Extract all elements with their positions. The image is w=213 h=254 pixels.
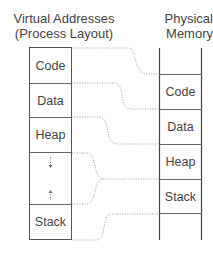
segment-label: Data — [167, 120, 193, 134]
segment-label: Data — [37, 94, 63, 108]
connector-free-top — [72, 153, 159, 179]
physical-segment-code: Code — [159, 74, 202, 109]
connector-stack — [72, 214, 159, 240]
segment-label: Heap — [166, 155, 196, 169]
virtual-segment-heap: Heap — [30, 118, 71, 153]
physical-segment-heap: Heap — [159, 144, 202, 179]
connector-code — [72, 48, 159, 74]
physical-segment-data: Data — [159, 109, 202, 144]
connector-data — [72, 83, 159, 109]
segment-label: Stack — [165, 190, 196, 204]
virtual-segment-data: Data — [30, 84, 71, 118]
segment-label: Code — [166, 85, 196, 99]
virtual-segment-stack: Stack — [30, 205, 71, 239]
segment-label: Code — [36, 59, 66, 73]
connector-free-bottom — [72, 179, 104, 204]
segment-label: Stack — [35, 215, 66, 229]
physical-segment-stack: Stack — [159, 179, 202, 214]
connector-heap — [72, 117, 159, 144]
virtual-address-space: Code Data Heap Stack — [29, 47, 72, 240]
segment-label: Heap — [36, 128, 66, 142]
virtual-segment-free — [30, 153, 71, 205]
virtual-segment-code: Code — [30, 48, 71, 84]
